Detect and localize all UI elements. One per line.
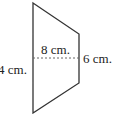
- trapezoid-outline: [33, 3, 79, 113]
- left-side-label: 4 cm.: [0, 62, 27, 77]
- trapezoid-diagram: 4 cm. 8 cm. 6 cm.: [0, 0, 118, 114]
- height-label: 8 cm.: [41, 42, 70, 57]
- right-side-label: 6 cm.: [83, 51, 112, 66]
